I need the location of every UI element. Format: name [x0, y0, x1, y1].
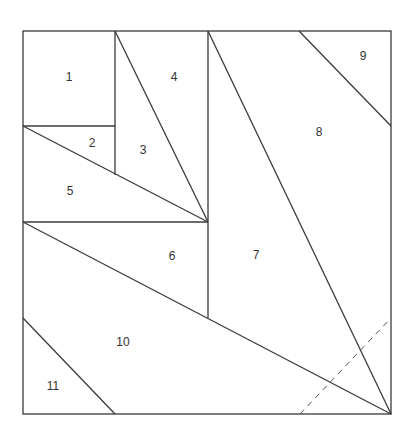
quilt-diagram: 1 2 3 4 5 6 7 8 9 10 11: [0, 0, 414, 438]
piece-label-8: 8: [316, 125, 323, 139]
piece-label-6: 6: [169, 249, 176, 263]
piece-label-9: 9: [360, 49, 367, 63]
piece-label-4: 4: [171, 70, 178, 84]
piece-label-1: 1: [66, 70, 73, 84]
seam-diag-7-8: [208, 31, 391, 414]
seam-diag-10-11: [23, 318, 115, 414]
piece-label-11: 11: [47, 379, 60, 393]
seam-diag-3-4: [115, 31, 208, 222]
piece-label-7: 7: [253, 248, 260, 262]
fold-line-dashed: [300, 318, 391, 414]
piece-label-5: 5: [67, 184, 74, 198]
piece-label-3: 3: [140, 143, 147, 157]
seam-diag-8-9: [299, 31, 391, 126]
piece-label-2: 2: [89, 136, 96, 150]
seam-diag-6-10: [23, 222, 391, 414]
piece-label-10: 10: [116, 335, 130, 349]
